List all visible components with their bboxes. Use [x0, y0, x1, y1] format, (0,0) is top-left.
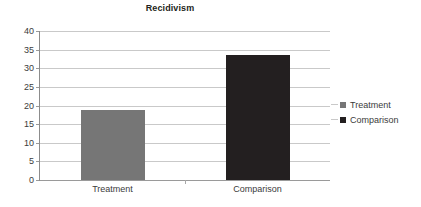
y-axis-tick-label: 20 [6, 102, 34, 111]
gridline-40 [40, 31, 330, 32]
y-axis: 4035302520151050 [0, 31, 34, 180]
y-axis-tick-label: 5 [6, 157, 34, 166]
chart-legend: TreatmentComparison [340, 97, 421, 127]
bar-treatment[interactable] [81, 110, 145, 180]
x-axis-separator-tick [185, 180, 186, 184]
y-axis-tick-label: 30 [6, 64, 34, 73]
y-axis-tick-label: 0 [6, 176, 34, 185]
gridline-35 [40, 50, 330, 51]
x-axis-label-treatment: Treatment [40, 184, 185, 195]
legend-swatch-icon [340, 102, 346, 108]
y-axis-tick-label: 15 [6, 120, 34, 129]
plot-area [40, 31, 330, 180]
chart-title: Recidivism [0, 3, 340, 13]
legend-label: Treatment [350, 100, 391, 110]
x-axis-label-comparison: Comparison [185, 184, 330, 195]
bar-chart: Recidivism 4035302520151050 TreatmentCom… [0, 0, 421, 207]
legend-lead-line [331, 119, 338, 120]
y-axis-tick-label: 10 [6, 139, 34, 148]
x-axis: TreatmentComparison [40, 184, 330, 200]
legend-item-comparison[interactable]: Comparison [340, 112, 421, 127]
bar-comparison[interactable] [226, 55, 290, 180]
y-axis-tick-label: 35 [6, 46, 34, 55]
y-axis-tick-label: 40 [6, 27, 34, 36]
y-axis-tick-label: 25 [6, 83, 34, 92]
legend-label: Comparison [350, 115, 399, 125]
legend-item-treatment[interactable]: Treatment [340, 97, 421, 112]
legend-lead-line [331, 104, 338, 105]
legend-swatch-icon [340, 117, 346, 123]
